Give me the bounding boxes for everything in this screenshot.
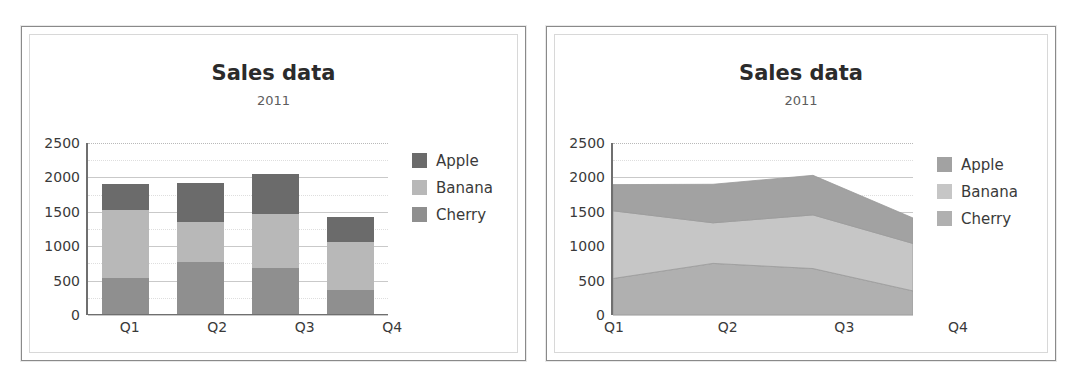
bar-segment[interactable] — [327, 217, 374, 242]
y-tick-label: 500 — [578, 273, 605, 289]
legend-item[interactable]: Cherry — [412, 203, 493, 226]
bar-segment[interactable] — [252, 214, 299, 268]
bar-chart-plot-area[interactable] — [86, 143, 388, 315]
gridline — [613, 315, 913, 316]
y-tick-label: 1500 — [44, 204, 80, 220]
area-chart-x-axis: Q1Q2Q3Q4 — [611, 319, 961, 339]
area-chart-frame: Sales data 2011 05001000150020002500 Q1Q… — [554, 34, 1048, 353]
bar-chart-panel[interactable]: Sales data 2011 05001000150020002500 Q1Q… — [21, 26, 526, 361]
y-tick-label: 2500 — [44, 135, 80, 151]
legend-item-label: Cherry — [436, 206, 486, 224]
bar-segment[interactable] — [177, 262, 224, 314]
legend-item[interactable]: Apple — [412, 149, 493, 172]
legend-swatch-icon — [937, 157, 952, 172]
x-tick-label: Q3 — [834, 319, 854, 335]
bar-plot-region: 05001000150020002500 — [38, 143, 388, 315]
area-chart-plot-area[interactable] — [611, 143, 913, 315]
bar-segment[interactable] — [177, 183, 224, 222]
x-tick-label: Q1 — [120, 319, 140, 335]
legend-swatch-icon — [412, 153, 427, 168]
bar-segment[interactable] — [252, 174, 299, 214]
area-chart-panel[interactable]: Sales data 2011 05001000150020002500 Q1Q… — [546, 26, 1056, 361]
screenshot-root: Sales data 2011 05001000150020002500 Q1Q… — [0, 0, 1078, 387]
bar-chart-x-axis: Q1Q2Q3Q4 — [86, 319, 436, 339]
bar-chart-legend[interactable]: AppleBananaCherry — [412, 149, 493, 230]
legend-item-label: Banana — [436, 179, 493, 197]
bar-chart-frame: Sales data 2011 05001000150020002500 Q1Q… — [29, 34, 518, 353]
area-chart-title: Sales data — [555, 61, 1047, 85]
legend-item[interactable]: Cherry — [937, 207, 1018, 230]
legend-swatch-icon — [412, 207, 427, 222]
bar-column[interactable] — [102, 143, 149, 314]
x-tick-label: Q2 — [718, 319, 738, 335]
legend-item-label: Apple — [961, 156, 1004, 174]
y-tick-label: 1000 — [569, 238, 605, 254]
y-tick-label: 500 — [53, 273, 80, 289]
y-tick-label: 2000 — [44, 169, 80, 185]
area-chart-y-axis: 05001000150020002500 — [563, 143, 609, 315]
y-tick-label: 1500 — [569, 204, 605, 220]
area-series-group — [613, 143, 913, 315]
x-tick-label: Q2 — [207, 319, 227, 335]
y-tick-label: 2500 — [569, 135, 605, 151]
bar-segment[interactable] — [177, 222, 224, 263]
area-plot-region: 05001000150020002500 — [563, 143, 913, 315]
bar-segment[interactable] — [327, 242, 374, 289]
legend-swatch-icon — [937, 184, 952, 199]
y-tick-label: 0 — [71, 307, 80, 323]
legend-item-label: Apple — [436, 152, 479, 170]
bar-column[interactable] — [252, 143, 299, 314]
gridline — [88, 315, 388, 316]
y-tick-label: 2000 — [569, 169, 605, 185]
legend-item[interactable]: Banana — [937, 180, 1018, 203]
bar-chart-title: Sales data — [30, 61, 517, 85]
bar-column[interactable] — [327, 143, 374, 314]
legend-item-label: Cherry — [961, 210, 1011, 228]
bar-column[interactable] — [177, 143, 224, 314]
x-tick-label: Q4 — [382, 319, 402, 335]
bar-segment[interactable] — [102, 210, 149, 278]
y-tick-label: 1000 — [44, 238, 80, 254]
bar-chart-y-axis: 05001000150020002500 — [38, 143, 84, 315]
x-tick-label: Q3 — [295, 319, 315, 335]
legend-item[interactable]: Apple — [937, 153, 1018, 176]
legend-item-label: Banana — [961, 183, 1018, 201]
area-chart-legend[interactable]: AppleBananaCherry — [937, 153, 1018, 234]
x-tick-label: Q1 — [604, 319, 624, 335]
bar-segment[interactable] — [327, 290, 374, 314]
legend-swatch-icon — [412, 180, 427, 195]
bar-segment[interactable] — [252, 268, 299, 314]
bar-segment[interactable] — [102, 278, 149, 314]
legend-item[interactable]: Banana — [412, 176, 493, 199]
bar-chart-subtitle: 2011 — [30, 93, 517, 108]
bar-segment[interactable] — [102, 184, 149, 210]
legend-swatch-icon — [937, 211, 952, 226]
x-tick-label: Q4 — [948, 319, 968, 335]
area-chart-subtitle: 2011 — [555, 93, 1047, 108]
